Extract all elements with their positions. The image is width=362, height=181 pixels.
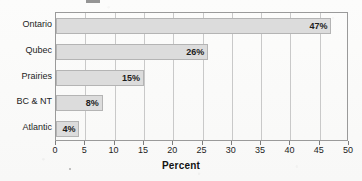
category-label: Ontario [0, 19, 52, 29]
x-axis-tick-label: 30 [226, 145, 236, 155]
bar-row: 15% [56, 65, 347, 91]
bar-value-label: 15% [56, 70, 144, 86]
x-axis-tick-label: 40 [284, 145, 294, 155]
bar-value-label: 4% [56, 121, 79, 137]
x-axis-tick-label: 5 [82, 145, 87, 155]
category-label: Qubec [0, 45, 52, 55]
bar-row: 8% [56, 90, 347, 116]
x-axis-tick-label: 35 [255, 145, 265, 155]
x-axis-tick-label: 25 [196, 145, 206, 155]
x-axis-tick-label: 50 [343, 145, 353, 155]
bar-row: 4% [56, 116, 347, 142]
category-label: Atlantic [0, 122, 52, 132]
bar-value-label: 26% [56, 44, 208, 60]
x-axis-tick-label: 10 [109, 145, 119, 155]
x-axis-tick-label: 0 [52, 145, 57, 155]
scan-speck [69, 168, 71, 170]
chart-figure: OntarioQubecPrairiesBC & NTAtlantic 47%2… [0, 0, 362, 181]
x-axis-tick-labels: 05101520253035404550 [55, 145, 348, 159]
category-label: BC & NT [0, 96, 52, 106]
bar-series: 47%26%15%8%4% [56, 13, 347, 140]
plot-area: 47%26%15%8%4% [55, 12, 348, 141]
category-label: Prairies [0, 71, 52, 81]
category-axis: OntarioQubecPrairiesBC & NTAtlantic [0, 12, 52, 141]
x-axis-title: Percent [0, 160, 362, 171]
x-axis-tick-label: 20 [167, 145, 177, 155]
cropped-title-fragment [86, 0, 100, 3]
bar-value-label: 47% [56, 18, 331, 34]
x-axis-tick-label: 15 [138, 145, 148, 155]
bar-value-label: 8% [56, 95, 103, 111]
x-axis-tick-label: 45 [314, 145, 324, 155]
bar-row: 47% [56, 13, 347, 39]
bar-row: 26% [56, 39, 347, 65]
